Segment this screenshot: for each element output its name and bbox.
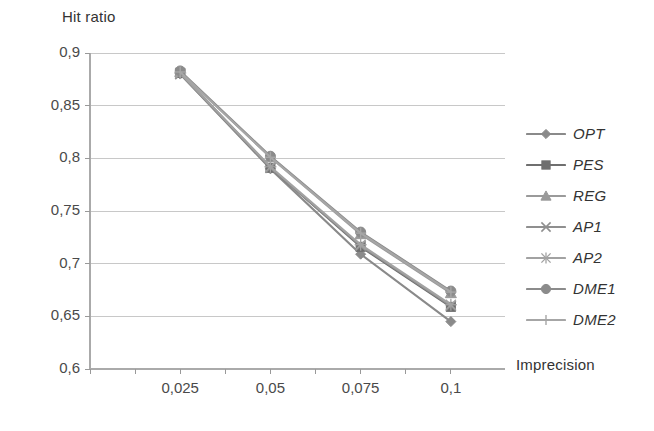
data-point-marker xyxy=(445,299,457,311)
legend-swatch-star-icon xyxy=(526,250,566,266)
series-line xyxy=(180,72,451,292)
legend-item-pes[interactable]: PES xyxy=(526,149,650,180)
y-axis-tick-label: 0,8 xyxy=(28,148,80,165)
series-ap2 xyxy=(174,67,457,311)
y-axis-tick-label: 0,75 xyxy=(28,201,80,218)
legend-label: DME1 xyxy=(573,280,616,297)
legend-label: OPT xyxy=(573,125,605,142)
series-line xyxy=(180,72,451,293)
legend-swatch-diamond-icon xyxy=(526,126,566,142)
legend-label: REG xyxy=(573,187,606,204)
legend-label: AP2 xyxy=(573,249,602,266)
legend-swatch-cross-icon xyxy=(526,219,566,235)
y-axis-tick-label: 0,9 xyxy=(28,43,80,60)
series-dme1 xyxy=(175,66,456,296)
legend-label: AP1 xyxy=(573,218,602,235)
legend-item-dme2[interactable]: DME2 xyxy=(526,304,650,335)
series-reg xyxy=(175,66,457,297)
data-point-marker xyxy=(541,284,550,293)
legend-item-dme1[interactable]: DME1 xyxy=(526,273,650,304)
data-point-marker xyxy=(542,160,550,168)
data-point-marker xyxy=(355,239,367,251)
legend-swatch-square-icon xyxy=(526,157,566,173)
chart-container: Hit ratio Imprecision OPTPESREGAP1AP2DME… xyxy=(0,0,654,431)
data-point-marker xyxy=(541,129,550,138)
legend-item-reg[interactable]: REG xyxy=(526,180,650,211)
x-axis-tick-label: 0,1 xyxy=(416,379,486,396)
x-axis-tick-label: 0,075 xyxy=(326,379,396,396)
chart-legend: OPTPESREGAP1AP2DME1DME2 xyxy=(526,118,650,335)
y-axis-tick-label: 0,6 xyxy=(28,359,80,376)
legend-swatch-plus-icon xyxy=(526,312,566,328)
y-axis-tick-label: 0,65 xyxy=(28,306,80,323)
series-dme2 xyxy=(175,66,457,297)
series-line xyxy=(180,73,451,305)
y-axis-tick-label: 0,85 xyxy=(28,96,80,113)
legend-label: PES xyxy=(573,156,604,173)
legend-item-ap1[interactable]: AP1 xyxy=(526,211,650,242)
legend-swatch-triangle-icon xyxy=(526,188,566,204)
data-point-marker xyxy=(540,252,551,263)
x-axis-tick-label: 0,05 xyxy=(235,379,305,396)
series-line xyxy=(180,71,451,291)
legend-item-opt[interactable]: OPT xyxy=(526,118,650,149)
data-point-marker xyxy=(541,314,551,324)
legend-swatch-circle-icon xyxy=(526,281,566,297)
legend-label: DME2 xyxy=(573,311,616,328)
y-axis-tick-label: 0,7 xyxy=(28,254,80,271)
x-axis-tick-label: 0,025 xyxy=(145,379,215,396)
legend-item-ap2[interactable]: AP2 xyxy=(526,242,650,273)
